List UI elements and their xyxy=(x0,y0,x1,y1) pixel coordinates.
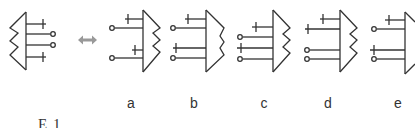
option-b-label[interactable]: b xyxy=(184,95,204,111)
diagram-canvas xyxy=(0,0,415,128)
option-e-molecule[interactable] xyxy=(370,12,415,74)
option-a-label[interactable]: a xyxy=(121,95,141,111)
option-d-molecule[interactable] xyxy=(305,10,357,72)
option-c-label[interactable]: c xyxy=(254,95,274,111)
option-c-molecule[interactable] xyxy=(237,10,290,72)
option-e-label[interactable]: e xyxy=(388,95,408,111)
original-molecule xyxy=(10,12,55,70)
option-a-molecule[interactable] xyxy=(110,10,160,72)
caption-partial: E 1 xyxy=(38,116,61,128)
double-arrow-icon xyxy=(78,36,97,45)
option-b-molecule[interactable] xyxy=(171,10,224,72)
option-d-label[interactable]: d xyxy=(318,95,338,111)
